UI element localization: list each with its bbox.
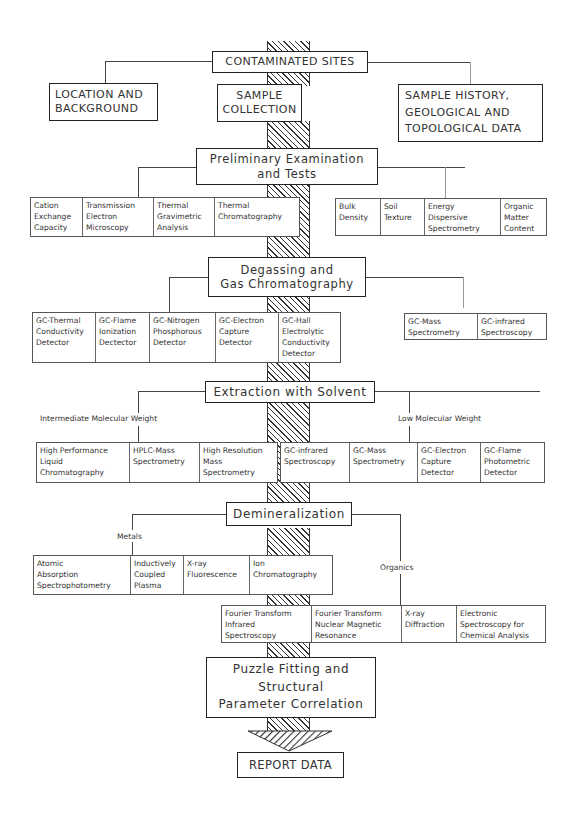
extraction-left-methods: High PerformanceLiquidChromatography HPL… — [36, 442, 278, 483]
method-cell: GC-ThermalConductivityDetector — [33, 313, 96, 362]
method-cell: High PerformanceLiquidChromatography — [37, 443, 130, 482]
extraction-right-methods: GC-infraredSpectroscopy GC-MassSpectrome… — [280, 442, 545, 483]
box-label: TOPOLOGICAL DATA — [405, 121, 521, 138]
method-cell: GC-NitrogenPhosphorousDetector — [150, 313, 216, 362]
stage-title: Gas Chromatography — [220, 277, 354, 291]
method-cell: GC-MassSpectrometry — [350, 443, 418, 482]
demineralization-left-methods: AtomicAbsorptionSpectrophotometry Induct… — [33, 555, 333, 595]
connector — [138, 167, 139, 198]
degassing-left-methods: GC-ThermalConductivityDetector GC-FlameI… — [32, 312, 341, 363]
puzzle-fitting-box: Puzzle Fitting and Structural Parameter … — [206, 657, 376, 718]
method-cell: BulkDensity — [336, 199, 381, 235]
box-label: LOCATION AND — [55, 88, 143, 102]
location-background-box: LOCATION AND BACKGROUND — [49, 83, 158, 121]
method-cell: AtomicAbsorptionSpectrophotometry — [34, 556, 131, 594]
connector — [138, 391, 206, 392]
method-cell: CationExchangeCapacity — [31, 198, 83, 236]
degassing-gc-box: Degassing and Gas Chromatography — [208, 257, 366, 297]
organics-label: Organics — [380, 563, 414, 572]
method-cell: GC-infraredSpectroscopy — [478, 314, 546, 339]
box-label: BACKGROUND — [55, 102, 138, 116]
method-cell: GC-ElectronCaptureDetector — [418, 443, 481, 482]
method-cell: SoilTexture — [381, 199, 425, 235]
connector — [366, 277, 464, 278]
connector — [132, 542, 133, 556]
method-cell: X-rayFluorescence — [184, 556, 250, 594]
connector — [409, 391, 410, 413]
method-cell: InductivelyCoupledPlasma — [131, 556, 184, 594]
metals-label: Metals — [117, 532, 142, 541]
stage-title: Parameter Correlation — [218, 696, 363, 713]
connector — [400, 514, 401, 561]
stage-title: Degassing and — [240, 263, 333, 277]
connector — [132, 514, 133, 530]
extraction-solvent-box: Extraction with Solvent — [205, 381, 375, 403]
connector — [105, 61, 213, 62]
method-cell: Fourier TransformInfraredSpectroscopy — [222, 606, 312, 642]
stage-title: Structural — [258, 679, 323, 696]
connector — [351, 514, 401, 515]
box-label: COLLECTION — [222, 103, 296, 117]
connector — [138, 391, 139, 413]
box-label: REPORT DATA — [249, 758, 332, 772]
box-label: SAMPLE — [236, 89, 282, 103]
method-cell: GC-MassSpectrometry — [405, 314, 478, 339]
down-arrow-icon — [246, 729, 336, 753]
report-data-box: REPORT DATA — [237, 752, 344, 778]
sample-history-box: SAMPLE HISTORY, GEOLOGICAL AND TOPOLOGIC… — [398, 84, 543, 142]
stage-title: Demineralization — [233, 507, 345, 522]
connector — [132, 514, 227, 515]
method-cell: GC-FlameIonizationDectector — [96, 313, 150, 362]
method-cell: OrganicMatterContent — [501, 199, 546, 235]
connector — [400, 574, 401, 606]
method-cell: GC-infraredSpectroscopy — [281, 443, 350, 482]
degassing-right-methods: GC-MassSpectrometry GC-infraredSpectrosc… — [404, 313, 547, 340]
connector — [105, 61, 106, 83]
low-mw-label: Low Molecular Weight — [398, 414, 481, 423]
method-cell: ThermalGravimetricAnalysis — [154, 198, 215, 236]
flow-spine-3 — [267, 121, 310, 151]
preliminary-right-methods: BulkDensity SoilTexture EnergyDispersive… — [335, 198, 547, 236]
connector — [409, 426, 410, 442]
method-cell: TransmissionElectronMicroscopy — [83, 198, 154, 236]
method-cell: High ResolutionMassSpectrometry — [200, 443, 277, 482]
demineralization-box: Demineralization — [226, 502, 352, 526]
contaminated-sites-box: CONTAMINATED SITES — [212, 51, 368, 73]
connector — [138, 167, 197, 168]
intermediate-mw-label: Intermediate Molecular Weight — [40, 414, 157, 423]
stage-title: Puzzle Fitting and — [233, 661, 349, 678]
stage-title: Preliminary Examination — [210, 152, 364, 166]
connector — [367, 62, 471, 63]
connector — [375, 391, 540, 392]
method-cell: GC-FlamePhotometricDetector — [481, 443, 544, 482]
method-cell: Fourier TransformNuclear MagneticResonan… — [312, 606, 402, 642]
method-cell: GC-HallElectrolyticConductivityDetector — [279, 313, 340, 362]
method-cell: HPLC-MassSpectrometry — [130, 443, 200, 482]
connector — [138, 426, 139, 442]
stage-title: and Tests — [257, 167, 316, 181]
connector — [470, 62, 471, 84]
connector — [377, 167, 465, 168]
connector — [169, 277, 170, 313]
connector — [445, 167, 446, 198]
stage-title: Extraction with Solvent — [213, 385, 366, 400]
sample-collection-box: SAMPLE COLLECTION — [217, 84, 302, 122]
method-cell: ThermalChromatography — [215, 198, 299, 236]
method-cell: GC-ElectronCaptureDetector — [216, 313, 279, 362]
method-cell: IonChromatography — [250, 556, 332, 594]
box-label: GEOLOGICAL AND — [405, 105, 510, 122]
method-cell: X-rayDiffraction — [402, 606, 457, 642]
box-label: CONTAMINATED SITES — [225, 55, 354, 69]
preliminary-examination-box: Preliminary Examination and Tests — [196, 148, 378, 185]
connector — [463, 277, 464, 308]
method-cell: ElectronicSpectroscopy forChemical Analy… — [457, 606, 545, 642]
box-label: SAMPLE HISTORY, — [405, 88, 509, 105]
connector — [169, 277, 209, 278]
demineralization-right-methods: Fourier TransformInfraredSpectroscopy Fo… — [221, 605, 546, 643]
preliminary-left-methods: CationExchangeCapacity TransmissionElect… — [30, 197, 300, 237]
method-cell: EnergyDispersiveSpectrometry — [425, 199, 501, 235]
